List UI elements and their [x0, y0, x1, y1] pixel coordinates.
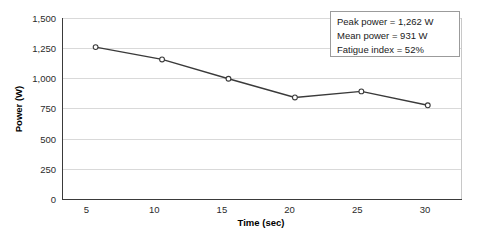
data-point — [359, 89, 364, 94]
x-tick-labels: 5 10 15 20 25 30 — [84, 204, 430, 215]
power-time-line-chart: 1,500 1,250 1,000 750 500 250 0 5 10 15 … — [0, 0, 488, 231]
chart-canvas: 1,500 1,250 1,000 750 500 250 0 5 10 15 … — [0, 0, 488, 231]
x-tick-label-5: 5 — [84, 204, 89, 215]
y-tick-label-500: 500 — [40, 134, 56, 145]
annotation-peak-power: Peak power = 1,262 W — [337, 16, 433, 27]
y-tick-label-250: 250 — [40, 164, 56, 175]
y-tick-label-1250: 1,250 — [32, 43, 56, 54]
x-tick-label-30: 30 — [420, 204, 431, 215]
y-tick-label-1000: 1,000 — [32, 73, 56, 84]
y-tick-label-0: 0 — [51, 194, 56, 205]
y-tick-label-1500: 1,500 — [32, 13, 56, 24]
data-point — [293, 95, 298, 100]
x-tick-label-20: 20 — [284, 204, 295, 215]
x-axis-title: Time (sec) — [238, 217, 285, 228]
statistics-annotation: Peak power = 1,262 W Mean power = 931 W … — [331, 12, 460, 57]
x-tick-label-25: 25 — [352, 204, 363, 215]
data-point — [226, 76, 231, 81]
annotation-fatigue-index: Fatigue index = 52% — [337, 44, 424, 55]
x-tick-label-10: 10 — [149, 204, 160, 215]
data-point — [425, 103, 430, 108]
data-point — [160, 57, 165, 62]
data-point — [93, 45, 98, 50]
y-axis-title: Power (W) — [13, 86, 24, 132]
annotation-mean-power: Mean power = 931 W — [337, 30, 428, 41]
y-tick-label-750: 750 — [40, 103, 56, 114]
y-tick-labels: 1,500 1,250 1,000 750 500 250 0 — [32, 13, 56, 205]
x-tick-label-15: 15 — [217, 204, 228, 215]
